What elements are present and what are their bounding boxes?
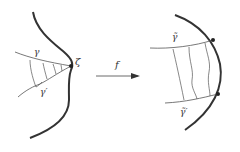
cross-hatch-1 — [30, 60, 42, 87]
gamma-tilde-curve — [150, 40, 213, 48]
cross-line-1 — [173, 49, 184, 100]
gamma-label: γ — [34, 47, 40, 57]
left-domain: ζ γ γ′ — [15, 12, 81, 138]
zeta-point — [69, 64, 73, 68]
arrow-head — [131, 73, 140, 79]
cross-hatch-3 — [53, 64, 56, 74]
left-boundary-curve — [30, 12, 72, 138]
gamma-prime-label: γ′ — [40, 87, 47, 97]
upper-boundary-point — [211, 38, 215, 42]
lower-boundary-point — [216, 92, 220, 96]
conformal-map-diagram: ζ γ γ′ f γ̃ γ̃′ — [0, 0, 240, 152]
gamma-tilde-prime-label: γ̃′ — [180, 107, 187, 117]
cross-hatch-4 — [61, 65, 62, 71]
map-arrow: f — [96, 59, 140, 79]
gamma-tilde-label: γ̃ — [172, 32, 178, 42]
cross-line-2 — [189, 47, 197, 99]
cross-line-3 — [205, 43, 210, 96]
right-domain: γ̃ γ̃′ — [150, 15, 221, 130]
cross-hatch-2 — [43, 63, 47, 79]
f-label: f — [114, 59, 121, 70]
zeta-label: ζ — [75, 56, 81, 67]
